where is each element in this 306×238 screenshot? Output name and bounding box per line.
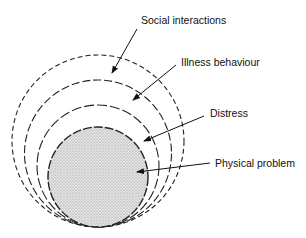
social-label: Social interactions: [141, 14, 226, 26]
physical-circle: [48, 127, 148, 227]
circle-layers: [12, 55, 184, 227]
illness-arrow: [133, 65, 176, 100]
layer-labels: Social interactionsIllness behaviourDist…: [141, 14, 295, 169]
distress-label: Distress: [210, 107, 248, 119]
social-arrow: [112, 29, 137, 73]
physical-arrow: [137, 163, 210, 172]
concentric-illness-model-diagram: Social interactionsIllness behaviourDist…: [0, 0, 306, 238]
distress-arrow: [144, 116, 204, 141]
physical-label: Physical problem: [215, 157, 295, 169]
illness-label: Illness behaviour: [181, 56, 260, 68]
